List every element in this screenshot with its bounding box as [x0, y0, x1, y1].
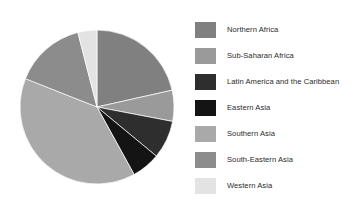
- pie-slice-group: [20, 30, 174, 184]
- legend-item[interactable]: Latin America and the Caribbean: [195, 69, 360, 95]
- legend-item[interactable]: Western Asia: [195, 173, 360, 199]
- legend-item[interactable]: Sub-Saharan Africa: [195, 43, 360, 69]
- pie-chart-svg: [18, 28, 178, 188]
- legend-swatch-icon: [195, 48, 216, 64]
- pie-chart-area: [18, 28, 178, 188]
- legend-swatch-icon: [195, 178, 216, 194]
- legend-item-label: Sub-Saharan Africa: [227, 52, 294, 60]
- legend-item-label: Latin America and the Caribbean: [227, 78, 339, 86]
- legend-swatch-icon: [195, 152, 216, 168]
- pie-chart-figure: Northern AfricaSub-Saharan AfricaLatin A…: [0, 0, 362, 217]
- chart-legend: Northern AfricaSub-Saharan AfricaLatin A…: [195, 17, 360, 199]
- legend-item-label: South-Eastern Asia: [227, 156, 293, 164]
- legend-item[interactable]: Northern Africa: [195, 17, 360, 43]
- legend-swatch-icon: [195, 126, 216, 142]
- legend-item-label: Northern Africa: [227, 26, 278, 34]
- legend-swatch-icon: [195, 100, 216, 116]
- legend-item[interactable]: South-Eastern Asia: [195, 147, 360, 173]
- legend-swatch-icon: [195, 74, 216, 90]
- legend-item[interactable]: Eastern Asia: [195, 95, 360, 121]
- legend-item-label: Eastern Asia: [227, 104, 270, 112]
- legend-item-label: Western Asia: [227, 182, 272, 190]
- legend-swatch-icon: [195, 22, 216, 38]
- legend-item-label: Southern Asia: [227, 130, 275, 138]
- legend-item[interactable]: Southern Asia: [195, 121, 360, 147]
